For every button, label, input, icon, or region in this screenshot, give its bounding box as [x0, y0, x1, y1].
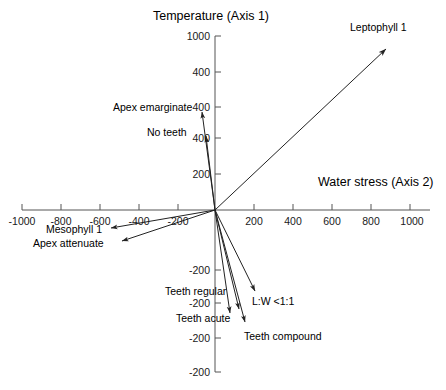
x-tick-label: 800 [353, 216, 389, 227]
vector-label-apex-emarginate: Apex emarginate [113, 102, 192, 113]
y-tick-label: 400 [182, 67, 210, 78]
vector-label-leptophyll-1: Leptophyll 1 [350, 22, 407, 33]
y-tick-label: -200 [174, 367, 210, 378]
x-tick-label: -400 [119, 216, 159, 227]
vector-label-lw-ratio: L:W <1:1 [252, 296, 294, 307]
y-axis-title: Temperature (Axis 1) [153, 10, 269, 23]
y-tick-label: -200 [174, 333, 210, 344]
x-axis-title: Water stress (Axis 2) [318, 176, 434, 189]
biplot-chart: Temperature (Axis 1) Water stress (Axis … [0, 0, 446, 390]
x-axis-line [22, 204, 430, 210]
y-tick-label: 1000 [182, 31, 210, 42]
vector-teeth-compound [215, 210, 245, 322]
x-tick-label: 1000 [392, 216, 432, 227]
vector-label-mesophyll-1: Mesophyll 1 [46, 224, 102, 235]
vector-label-teeth-regular: Teeth regular [165, 286, 226, 297]
x-tick-label: 400 [275, 216, 311, 227]
y-tick-label: -200 [174, 298, 210, 309]
y-tick-label: 200 [182, 169, 210, 180]
y-tick-label: -200 [174, 265, 210, 276]
vector-label-teeth-compound: Teeth compound [244, 331, 322, 342]
vector-label-teeth-acute: Teeth acute [176, 313, 230, 324]
vector-label-apex-attenuate: Apex attenuate [33, 238, 104, 249]
chart-canvas [0, 0, 446, 390]
x-tick-label: 600 [314, 216, 350, 227]
x-tick-label: -200 [158, 216, 198, 227]
x-tick-label: 200 [236, 216, 272, 227]
vector-label-no-teeth: No teeth [147, 127, 187, 138]
x-tick-label: -1000 [0, 216, 44, 227]
